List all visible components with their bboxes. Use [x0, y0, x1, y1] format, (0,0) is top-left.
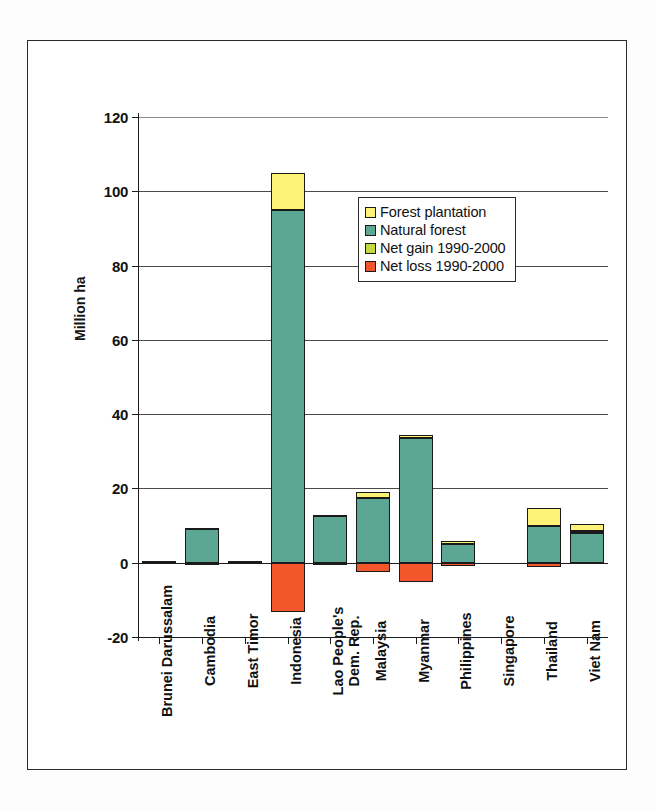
- x-axis-label: Thailand: [544, 621, 560, 681]
- category-column: Brunei Darussalam: [138, 117, 181, 637]
- legend-label: Net gain 1990-2000: [380, 240, 506, 256]
- legend-label: Natural forest: [380, 222, 466, 238]
- bar-segment-net-loss[interactable]: [356, 563, 390, 572]
- chart-page: Million ha Brunei DarussalamCambodiaEast…: [0, 0, 656, 811]
- bar-stack[interactable]: [271, 117, 305, 637]
- x-axis-label: Singapore: [501, 616, 517, 687]
- y-axis-tick: [132, 414, 138, 415]
- category-column: Lao People'sDem. Rep.: [309, 117, 352, 637]
- bar-stack[interactable]: [441, 117, 475, 637]
- category-column: East Timor: [223, 117, 266, 637]
- y-axis-label: 100: [28, 183, 128, 200]
- bar-segment-natural-forest[interactable]: [185, 529, 219, 563]
- x-axis-label: Malaysia: [373, 621, 389, 681]
- bar-stack[interactable]: [142, 117, 176, 637]
- bar-stack[interactable]: [313, 117, 347, 637]
- bar-segment-net-gain[interactable]: [570, 531, 604, 533]
- y-axis-tick: [132, 340, 138, 341]
- legend-swatch: [365, 225, 376, 236]
- legend-item[interactable]: Forest plantation: [365, 203, 506, 221]
- y-axis-label: 40: [28, 406, 128, 423]
- bar-segment-natural-forest[interactable]: [441, 544, 475, 563]
- x-axis-label: Indonesia: [288, 617, 304, 685]
- bar-segment-forest-plantation[interactable]: [271, 173, 305, 210]
- y-axis-line: [138, 113, 139, 641]
- y-axis-tick: [132, 637, 138, 638]
- legend-label: Forest plantation: [380, 204, 486, 220]
- x-axis-label: Philippines: [458, 612, 474, 689]
- bar-segment-net-loss[interactable]: [271, 563, 305, 612]
- legend-item[interactable]: Net gain 1990-2000: [365, 239, 506, 257]
- bar-segment-natural-forest[interactable]: [527, 526, 561, 563]
- y-axis-tick: [132, 563, 138, 564]
- y-axis-label: 80: [28, 257, 128, 274]
- y-axis-label: 60: [28, 331, 128, 348]
- bar-stack[interactable]: [399, 117, 433, 637]
- bar-segment-natural-forest[interactable]: [570, 533, 604, 563]
- legend-label: Net loss 1990-2000: [380, 258, 504, 274]
- bar-segment-forest-plantation[interactable]: [399, 435, 433, 438]
- category-column: Malaysia: [352, 117, 395, 637]
- x-axis-label: Viet Nam: [587, 620, 603, 682]
- x-axis-label: Cambodia: [202, 616, 218, 686]
- bar-segment-net-loss[interactable]: [399, 563, 433, 582]
- legend-item[interactable]: Natural forest: [365, 221, 506, 239]
- bar-stack[interactable]: [228, 117, 262, 637]
- legend-item[interactable]: Net loss 1990-2000: [365, 257, 506, 275]
- bar-stack[interactable]: [570, 117, 604, 637]
- category-column: Viet Nam: [565, 117, 608, 637]
- bar-segment-forest-plantation[interactable]: [185, 528, 219, 530]
- bar-stack[interactable]: [185, 117, 219, 637]
- x-axis-label: Brunei Darussalam: [159, 585, 175, 717]
- legend-swatch: [365, 261, 376, 272]
- y-axis-tick: [132, 266, 138, 267]
- y-axis-label: 20: [28, 480, 128, 497]
- category-column: Singapore: [480, 117, 523, 637]
- bar-stack[interactable]: [484, 117, 518, 637]
- bar-segment-natural-forest[interactable]: [399, 438, 433, 563]
- y-axis-tick: [132, 117, 138, 118]
- category-column: Indonesia: [266, 117, 309, 637]
- x-axis-label: Myanmar: [416, 619, 432, 683]
- chart-frame: Million ha Brunei DarussalamCambodiaEast…: [27, 40, 627, 770]
- category-column: Myanmar: [394, 117, 437, 637]
- y-axis-tick: [132, 488, 138, 489]
- bar-segment-natural-forest[interactable]: [271, 210, 305, 563]
- bar-segment-forest-plantation[interactable]: [313, 515, 347, 517]
- bar-segment-natural-forest[interactable]: [356, 498, 390, 562]
- bar-segment-forest-plantation[interactable]: [570, 524, 604, 530]
- y-axis-tick: [132, 191, 138, 192]
- bar-stack[interactable]: [356, 117, 390, 637]
- bar-stack[interactable]: [527, 117, 561, 637]
- category-column: Philippines: [437, 117, 480, 637]
- plot-area: Brunei DarussalamCambodiaEast TimorIndon…: [138, 117, 608, 637]
- bar-segment-natural-forest[interactable]: [313, 516, 347, 563]
- zero-baseline: [138, 563, 608, 564]
- category-column: Cambodia: [181, 117, 224, 637]
- x-axis-label: East Timor: [245, 614, 261, 689]
- legend-swatch: [365, 207, 376, 218]
- y-axis-label: -20: [28, 629, 128, 646]
- legend-swatch: [365, 243, 376, 254]
- y-axis-label: 120: [28, 109, 128, 126]
- chart-legend: Forest plantationNatural forestNet gain …: [358, 197, 516, 282]
- category-column: Thailand: [523, 117, 566, 637]
- x-axis-line: [138, 637, 608, 638]
- y-axis-label: 0: [28, 554, 128, 571]
- bar-segment-forest-plantation[interactable]: [356, 492, 390, 499]
- bar-segment-forest-plantation[interactable]: [527, 508, 561, 526]
- bar-segment-forest-plantation[interactable]: [441, 541, 475, 544]
